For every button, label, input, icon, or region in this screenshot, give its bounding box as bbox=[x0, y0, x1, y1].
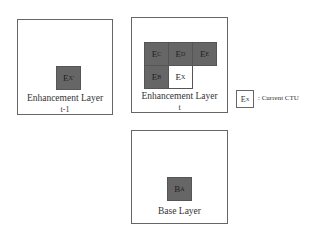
legend-symbol-box: EX bbox=[236, 90, 254, 108]
block-ee: EE bbox=[192, 42, 217, 66]
block-sub: C bbox=[157, 51, 161, 57]
layer-label: Base Layer bbox=[132, 206, 227, 216]
block-ex-prime: EX' bbox=[56, 66, 81, 90]
block-ed: ED bbox=[168, 42, 193, 66]
legend-sub: X bbox=[246, 97, 250, 102]
block-ex-current: EX bbox=[168, 65, 193, 89]
legend-text: : Current CTU bbox=[258, 94, 299, 102]
enhancement-layer-t: EC ED EE EB EX Enhancement Layer t bbox=[131, 17, 228, 113]
block-sup: ' bbox=[73, 75, 74, 81]
block-sub: X bbox=[181, 74, 185, 80]
block-ec: EC bbox=[144, 42, 169, 66]
enhancement-layer-t-1: EX' Enhancement Layer t-1 bbox=[17, 19, 113, 115]
layer-label: Enhancement Layer bbox=[18, 93, 112, 103]
layer-sublabel: t-1 bbox=[18, 105, 112, 114]
block-sub: A bbox=[180, 186, 184, 192]
block-sub: B bbox=[157, 74, 161, 80]
base-layer: BA Base Layer bbox=[131, 130, 228, 224]
block-ba: BA bbox=[167, 177, 192, 201]
block-sub: D bbox=[181, 51, 185, 57]
block-sub: E bbox=[205, 51, 209, 57]
block-eb: EB bbox=[144, 65, 169, 89]
layer-sublabel: t bbox=[132, 103, 227, 112]
layer-label: Enhancement Layer bbox=[132, 91, 227, 101]
